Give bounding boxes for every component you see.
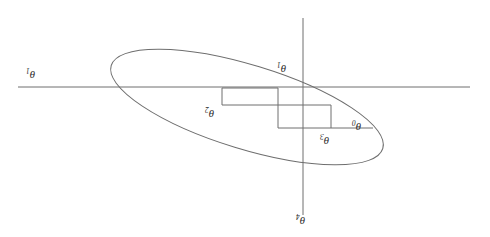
label-theta-4-subscript: 4 [296, 212, 300, 221]
figure-container: θ1θ2θ3θ0θ1θ4 [0, 0, 490, 237]
label-theta-3-subscript: 3 [320, 132, 324, 141]
label-theta-1: θ1 [26, 66, 35, 80]
label-theta-0-subscript: 0 [352, 118, 356, 127]
label-theta-2-base: θ [209, 108, 214, 120]
label-theta-4-base: θ [300, 215, 305, 227]
label-theta-3: θ3 [320, 132, 329, 146]
label-theta-2-subscript: 2 [205, 105, 209, 114]
label-theta-top-subscript: 1 [277, 60, 281, 69]
label-theta-top: θ1 [277, 60, 286, 74]
label-theta-2: θ2 [205, 105, 214, 119]
descent-path-group [222, 88, 373, 128]
label-theta-1-subscript: 1 [26, 66, 30, 75]
axes-group [18, 18, 470, 215]
label-theta-top-base: θ [281, 63, 286, 75]
figure-canvas [0, 0, 490, 237]
label-theta-3-base: θ [324, 135, 329, 147]
label-theta-0: θ0 [352, 118, 361, 132]
contour-ellipse [99, 25, 395, 188]
descent-path-polyline [222, 88, 373, 128]
label-theta-4: θ4 [296, 212, 305, 226]
label-theta-1-base: θ [30, 69, 35, 81]
label-theta-0-base: θ [356, 121, 361, 133]
contour-group [99, 25, 395, 188]
